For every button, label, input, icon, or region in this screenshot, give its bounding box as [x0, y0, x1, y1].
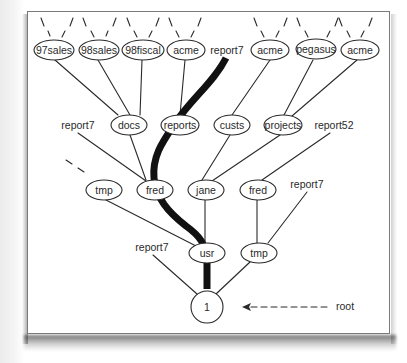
directory-tree-diagram: 97sales 98sales 98fiscal acme report7 ac…	[0, 0, 407, 363]
label-report7-fourth: report7	[135, 241, 168, 253]
label-docs: docs	[118, 119, 140, 131]
label-reports: reports	[164, 119, 197, 131]
continuation-ticks	[41, 18, 372, 37]
root-arrow	[242, 303, 327, 311]
label-report7-top: report7	[210, 44, 243, 56]
label-projects: projects	[265, 119, 302, 131]
label-98fiscal: 98fiscal	[125, 44, 161, 56]
label-98sales: 98sales	[81, 44, 117, 56]
label-usr: usr	[200, 247, 215, 259]
label-root-node: 1	[204, 301, 210, 313]
label-root-annotation: root	[336, 300, 354, 312]
label-tmp-1: tmp	[95, 184, 113, 196]
label-report7-third: report7	[290, 178, 323, 190]
label-custs: custs	[220, 119, 245, 131]
label-acme-3: acme	[347, 44, 373, 56]
label-97sales: 97sales	[36, 44, 72, 56]
label-fred-1: fred	[146, 184, 164, 196]
label-pegasus: pegasus	[296, 43, 336, 55]
label-jane: jane	[195, 184, 216, 196]
label-tmp-2: tmp	[250, 247, 268, 259]
label-fred-2: fred	[249, 184, 267, 196]
label-report7-second: report7	[61, 119, 94, 131]
label-report52: report52	[314, 119, 353, 131]
label-acme-1: acme	[173, 44, 199, 56]
label-acme-2: acme	[257, 44, 283, 56]
